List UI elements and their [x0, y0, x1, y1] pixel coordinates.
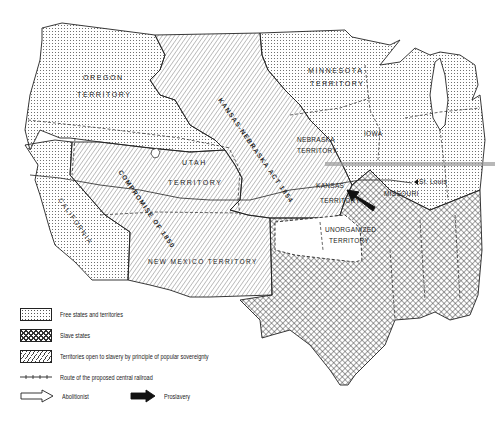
- proslavery-arrow-icon: [130, 389, 156, 403]
- popular-sovereignty-swatch-icon: [20, 350, 52, 363]
- abolitionist-arrow-icon: [20, 389, 54, 403]
- railroad-highlight: [325, 162, 495, 166]
- legend-item-free: Free states and territories: [20, 306, 134, 322]
- label-oregon-territory: TERRITORY: [77, 91, 132, 98]
- legend-item-railroad: Route of the proposed central railroad: [20, 369, 169, 385]
- label-new-mexico-territory: NEW MEXICO TERRITORY: [148, 258, 258, 265]
- label-unorganized-territory: TERRITORY: [329, 237, 369, 244]
- legend-item-proslavery: Proslavery: [130, 388, 195, 404]
- label-unorganized: UNORGANIZED: [325, 226, 376, 233]
- legend-label: Proslavery: [164, 393, 190, 400]
- label-utah-territory: TERRITORY: [168, 179, 223, 186]
- slave-states-swatch-icon: [20, 329, 52, 342]
- label-missouri: MISSOURI: [384, 190, 419, 197]
- label-oregon: OREGON: [83, 74, 124, 81]
- legend-item-abolitionist: Abolitionist: [20, 388, 93, 404]
- label-minnesota-territory: TERRITORY: [310, 80, 365, 87]
- legend-label: Free states and territories: [60, 311, 123, 318]
- legend-label: Route of the proposed central railroad: [60, 374, 153, 381]
- free-states-swatch-icon: [20, 308, 52, 321]
- label-kansas-territory: TERRITORY: [320, 197, 360, 204]
- label-minnesota: MINNESOTA: [308, 67, 364, 74]
- label-kansas: KANSAS: [316, 182, 345, 189]
- legend-label: Abolitionist: [62, 393, 89, 400]
- legend-item-slave: Slave states: [20, 327, 95, 343]
- legend-label: Territories open to slavery by principle…: [60, 353, 209, 360]
- label-st-louis: St. Louis: [419, 178, 447, 185]
- label-nebraska-territory: TERRITORY: [297, 147, 337, 154]
- legend-item-popular-sovereignty: Territories open to slavery by principle…: [20, 348, 235, 364]
- legend-label: Slave states: [60, 332, 90, 339]
- label-nebraska: NEBRASKA: [297, 136, 335, 143]
- label-iowa: IOWA: [364, 130, 383, 137]
- railroad-line-icon: [20, 373, 52, 381]
- label-utah: UTAH: [182, 159, 207, 166]
